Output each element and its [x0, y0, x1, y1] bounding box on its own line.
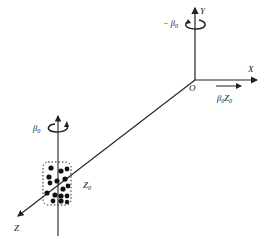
rotation-bottom-icon: [48, 121, 69, 132]
particle-cluster: [44, 165, 70, 204]
x-axis-label: X: [247, 64, 254, 74]
coordinate-diagram: Y X O Z − β0 β0Z0 β0: [0, 0, 265, 239]
z-axis-label: Z: [14, 223, 20, 233]
cluster-label: Z0: [83, 180, 91, 191]
x-axis: X: [195, 64, 257, 80]
rotation-bottom-label: β0: [32, 123, 40, 134]
y-axis: Y: [195, 6, 206, 80]
origin-label: O: [189, 83, 196, 93]
y-axis-label: Y: [200, 6, 206, 16]
z-axis: Z: [14, 80, 195, 233]
rotation-top-label: − β0: [163, 18, 178, 29]
translation-label: β0Z0: [216, 93, 232, 104]
